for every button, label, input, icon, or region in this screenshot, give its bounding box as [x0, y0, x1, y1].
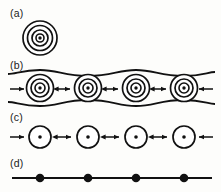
panel-c-center-dot — [38, 135, 42, 139]
panel-b-vortex-3 — [123, 75, 150, 102]
panel-c-vortex-2 — [77, 126, 99, 148]
panel-c-vortex-3 — [125, 126, 147, 148]
panel-b-center-dot — [38, 86, 41, 89]
panel-b-vortex-4 — [171, 75, 198, 102]
panel-a-graphic — [23, 21, 57, 55]
panel-d-point-2 — [84, 174, 93, 183]
figure-drawing-canvas — [0, 0, 221, 192]
panel-d-point-1 — [36, 174, 45, 183]
panel-b-center-dot — [134, 86, 137, 89]
panel-d-point-3 — [132, 174, 141, 183]
panel-d-graphic — [12, 174, 212, 183]
panel-b-graphic — [8, 70, 215, 106]
panel-b-center-dot — [86, 86, 89, 89]
figure-container: (a) (b) (c) (d) — [0, 0, 221, 192]
panel-label-c: (c) — [10, 112, 23, 123]
panel-c-vortex-4 — [173, 126, 195, 148]
panel-label-b: (b) — [10, 60, 23, 71]
panel-c-center-dot — [182, 135, 186, 139]
panel-b-center-dot — [182, 86, 185, 89]
panel-a-vortex — [23, 21, 57, 55]
panel-a-center-dot — [38, 36, 41, 39]
panel-c-center-dot — [134, 135, 138, 139]
panel-label-a: (a) — [10, 8, 23, 19]
panel-c-center-dot — [86, 135, 90, 139]
panel-label-d: (d) — [10, 158, 23, 169]
panel-b-vortex-1 — [27, 75, 54, 102]
panel-c-vortex-1 — [29, 126, 51, 148]
panel-b-vortex-2 — [75, 75, 102, 102]
panel-d-point-4 — [180, 174, 189, 183]
panel-c-graphic — [10, 126, 213, 148]
